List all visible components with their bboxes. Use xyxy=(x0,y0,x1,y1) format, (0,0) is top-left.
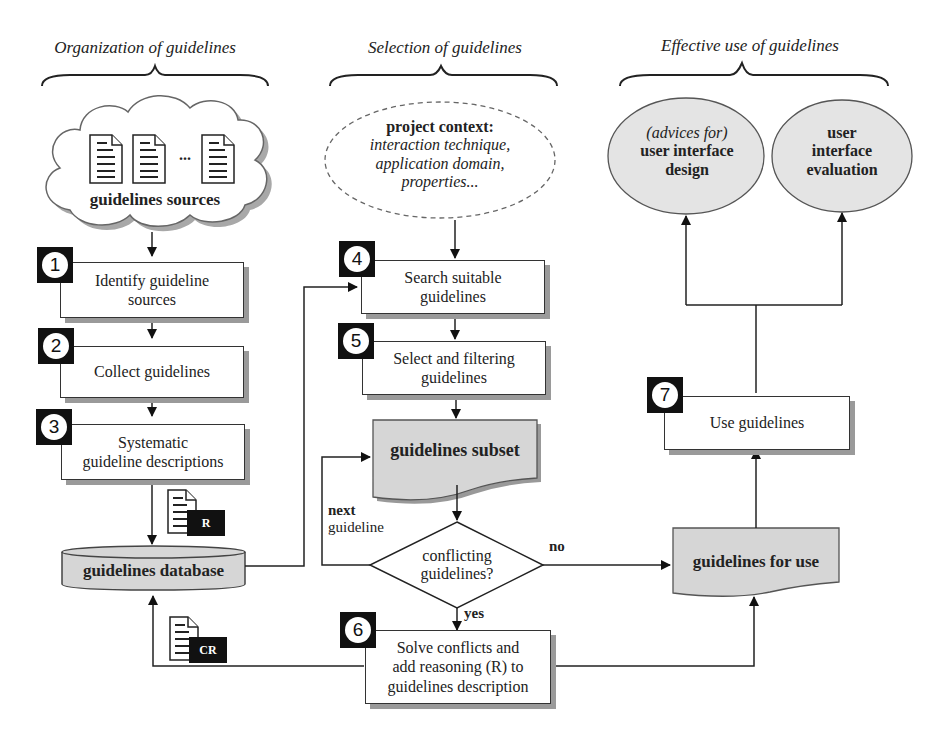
ui-design-line2: design xyxy=(612,161,762,179)
step-4-line1: Search suitable xyxy=(404,268,501,287)
step-5-line2: guidelines xyxy=(393,368,515,387)
section-heading-organization: Organization of guidelines xyxy=(40,38,250,58)
cloud-label: guidelines sources xyxy=(70,190,240,210)
document-icon xyxy=(202,135,234,183)
document-icon xyxy=(133,135,165,183)
guideline-label: guideline xyxy=(328,519,408,536)
no-label: no xyxy=(549,538,579,555)
step-6-line3: guidelines description xyxy=(388,677,529,696)
step-4-number: 4 xyxy=(344,246,370,272)
step-2-number: 2 xyxy=(43,333,69,359)
step-6-badge: 6 xyxy=(340,612,376,648)
step-4-badge: 4 xyxy=(339,241,375,277)
project-context-text: project context: interaction technique, … xyxy=(345,118,535,192)
cloud-ellipsis: ... xyxy=(170,146,200,164)
next-label: next xyxy=(328,502,408,519)
guidelines-for-use-label: guidelines for use xyxy=(673,552,839,572)
brace-organization xyxy=(42,66,268,86)
ui-evaluation-label: user interface evaluation xyxy=(780,124,904,179)
step-1-line1: Identify guideline xyxy=(95,271,209,290)
yes-label: yes xyxy=(464,605,504,622)
step-2-line1: Collect guidelines xyxy=(94,362,210,381)
step-3-line2: guideline descriptions xyxy=(83,452,224,471)
step-5-line1: Select and filtering xyxy=(393,349,515,368)
step-2-box: Collect guidelines xyxy=(60,346,244,398)
next-guideline-label: next guideline xyxy=(328,502,408,537)
section-heading-selection: Selection of guidelines xyxy=(340,38,550,58)
step-7-line1: Use guidelines xyxy=(710,413,805,432)
decision-line1: conflicting xyxy=(395,547,519,565)
step-1-number: 1 xyxy=(42,252,68,278)
step-6-number: 6 xyxy=(345,617,371,643)
step-4-line2: guidelines xyxy=(404,287,501,306)
ui-design-prefix: (advices for) xyxy=(612,124,762,142)
ui-design-line1: user interface xyxy=(612,142,762,160)
ui-evaluation-line2: interface xyxy=(780,142,904,160)
step-7-badge: 7 xyxy=(647,377,683,413)
step-3-badge: 3 xyxy=(36,409,72,445)
decision-label: conflicting guidelines? xyxy=(395,547,519,584)
ui-evaluation-line1: user xyxy=(780,124,904,142)
step-6-line1: Solve conflicts and xyxy=(388,638,529,657)
step-1-box: Identify guidelinesources xyxy=(60,262,244,318)
conflict-reasoning-tag: CR xyxy=(189,637,227,663)
step-7-box: Use guidelines xyxy=(664,396,850,450)
database-label: guidelines database xyxy=(62,561,245,581)
step-5-number: 5 xyxy=(343,328,369,354)
step-2-badge: 2 xyxy=(38,328,74,364)
brace-selection xyxy=(330,66,557,86)
decision-line2: guidelines? xyxy=(395,565,519,583)
reasoning-tag: R xyxy=(187,510,225,536)
step-4-box: Search suitableguidelines xyxy=(361,260,545,314)
step-6-line2: add reasoning (R) to xyxy=(388,657,529,676)
step-1-line2: sources xyxy=(95,290,209,309)
brace-effective xyxy=(620,63,888,86)
section-heading-effective-use: Effective use of guidelines xyxy=(630,36,870,56)
step-5-box: Select and filteringguidelines xyxy=(362,341,546,395)
step-7-number: 7 xyxy=(652,382,678,408)
project-context-title: project context: xyxy=(345,118,535,136)
guidelines-subset-label: guidelines subset xyxy=(373,440,537,461)
ui-design-label: (advices for) user interface design xyxy=(612,124,762,179)
step-3-box: Systematicguideline descriptions xyxy=(61,424,245,480)
project-context-line3: properties... xyxy=(345,173,535,191)
step-5-badge: 5 xyxy=(338,323,374,359)
project-context-line2: application domain, xyxy=(345,155,535,173)
ui-evaluation-line3: evaluation xyxy=(780,161,904,179)
document-icon xyxy=(90,135,122,183)
step-3-line1: Systematic xyxy=(83,433,224,452)
step-3-number: 3 xyxy=(41,414,67,440)
project-context-line1: interaction technique, xyxy=(345,136,535,154)
step-1-badge: 1 xyxy=(37,247,73,283)
step-6-box: Solve conflicts andadd reasoning (R) tog… xyxy=(365,630,551,704)
